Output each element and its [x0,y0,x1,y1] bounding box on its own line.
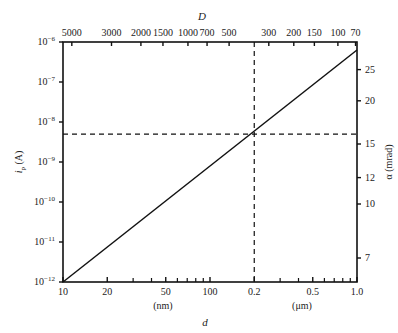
bottom-tick-label: 0.2 [248,286,261,297]
left-tick-label: 10−9 [38,155,56,167]
right-tick-label: 10 [365,198,375,209]
top-tick-label: 1500 [153,27,173,38]
right-tick-label: 25 [365,64,375,75]
top-tick-label: 700 [200,27,215,38]
bottom-tick-label: 10 [58,286,68,297]
left-tick-label: 10−12 [34,275,55,287]
right-axis-title: α (mrad) [383,145,395,180]
top-tick-label: 5000 [62,27,82,38]
x-unit-nm: (nm) [153,300,172,312]
bottom-tick-label: 20 [102,286,112,297]
data-line [63,50,357,282]
top-tick-label: 1000 [178,27,198,38]
y-axis-title: ip (A) [13,151,27,174]
plot-frame [63,42,357,282]
x-axis-title: d [202,316,208,328]
top-tick-label: 500 [222,27,237,38]
top-tick-label: 3000 [102,27,122,38]
top-tick-label: 150 [307,27,322,38]
left-tick-label: 10−8 [38,115,56,127]
right-tick-label: 7 [365,252,370,263]
x-unit-um: (μm) [292,300,312,312]
left-tick-label: 10−7 [38,75,56,87]
top-tick-label: 2000 [131,27,151,38]
chart-canvas: 1020501000.20.51.010−1210−1110−1010−910−… [0,0,398,333]
bottom-tick-label: 1.0 [351,286,364,297]
plot-area: 1020501000.20.51.010−1210−1110−1010−910−… [13,10,395,328]
right-tick-label: 12 [365,172,375,183]
top-tick-label: 100 [330,27,345,38]
left-tick-label: 10−11 [34,235,55,247]
top-axis-title: D [197,10,206,22]
top-tick-label: 70 [351,27,361,38]
right-tick-label: 15 [365,138,375,149]
left-tick-label: 10−10 [34,195,55,207]
top-tick-label: 200 [286,27,301,38]
bottom-tick-label: 0.5 [306,286,319,297]
top-tick-label: 300 [261,27,276,38]
bottom-tick-label: 50 [161,286,171,297]
left-tick-label: 10−6 [38,35,56,47]
right-tick-label: 20 [365,95,375,106]
bottom-tick-label: 100 [203,286,218,297]
